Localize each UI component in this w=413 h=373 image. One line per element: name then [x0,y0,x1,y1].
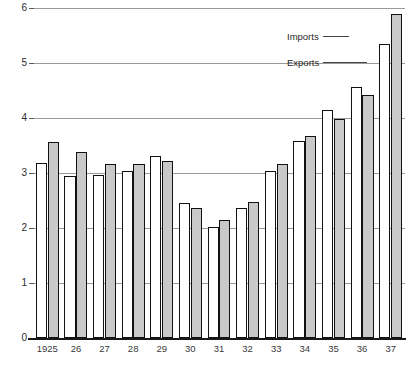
bar-imports-37 [391,14,402,339]
bar-exports-1925 [36,163,47,338]
legend-label-exports: Exports [287,58,319,68]
x-axis-tick-label: 34 [300,344,311,354]
x-axis-tick-label: 26 [71,344,82,354]
bar-imports-29 [162,161,173,338]
x-axis-tick-label: 31 [214,344,225,354]
x-axis-tick-label: 30 [185,344,196,354]
legend-label-imports: Imports [287,32,319,42]
bar-exports-37 [379,44,390,338]
x-axis-tick-label: 36 [357,344,368,354]
x-axis-line [28,338,406,340]
y-axis-tick-label: 2 [21,223,27,233]
x-axis-tick-label: 28 [128,344,139,354]
bar-imports-32 [248,202,259,338]
x-axis-tick-label: 37 [385,344,396,354]
y-axis-tick-label: 1 [21,278,27,288]
bar-exports-33 [265,171,276,338]
x-axis-tick-label: 27 [99,344,110,354]
bar-imports-36 [362,95,373,338]
y-axis-tick-label: 3 [21,168,27,178]
y-axis-tick-label: 6 [21,3,27,13]
y-tick-mark-3 [29,173,34,174]
bar-exports-28 [122,171,133,338]
bar-imports-34 [305,136,316,338]
y-axis-tick-label: 4 [21,113,27,123]
bar-exports-34 [293,141,304,338]
bar-exports-26 [64,176,75,338]
y-tick-mark-4 [29,118,34,119]
bar-exports-30 [179,203,190,338]
y-tick-mark-2 [29,228,34,229]
y-axis-tick-label: 0 [21,333,27,343]
legend-item-imports: Imports [287,32,349,42]
y-tick-mark-5 [29,63,34,64]
bar-exports-27 [93,175,104,338]
bar-exports-32 [236,208,247,338]
x-axis-tick-label: 33 [271,344,282,354]
bar-imports-27 [105,164,116,338]
bar-exports-29 [150,156,161,338]
bar-exports-36 [351,87,362,338]
bar-imports-35 [334,119,345,338]
x-axis-tick-label: 29 [156,344,167,354]
legend-leader-line-imports [323,36,349,37]
bar-imports-28 [133,164,144,338]
legend-item-exports: Exports [287,58,367,68]
x-axis-tick-label: 1925 [37,344,58,354]
y-tick-mark-1 [29,283,34,284]
legend-leader-line-exports [323,62,367,63]
x-axis-tick-label: 32 [242,344,253,354]
bar-exports-31 [208,227,219,338]
bar-exports-35 [322,110,333,338]
y-tick-mark-6 [29,8,34,9]
x-axis-tick-label: 35 [328,344,339,354]
gridline-y-3 [33,173,405,174]
y-axis-tick-label: 5 [21,58,27,68]
bar-imports-33 [277,164,288,338]
bar-imports-26 [76,152,87,338]
bar-imports-1925 [48,142,59,338]
gridline-y-6 [33,8,405,9]
bar-chart: 0123456 1925262728293031323334353637 Imp… [0,0,413,373]
gridline-y-4 [33,118,405,119]
bar-imports-30 [191,208,202,338]
bar-imports-31 [219,220,230,338]
